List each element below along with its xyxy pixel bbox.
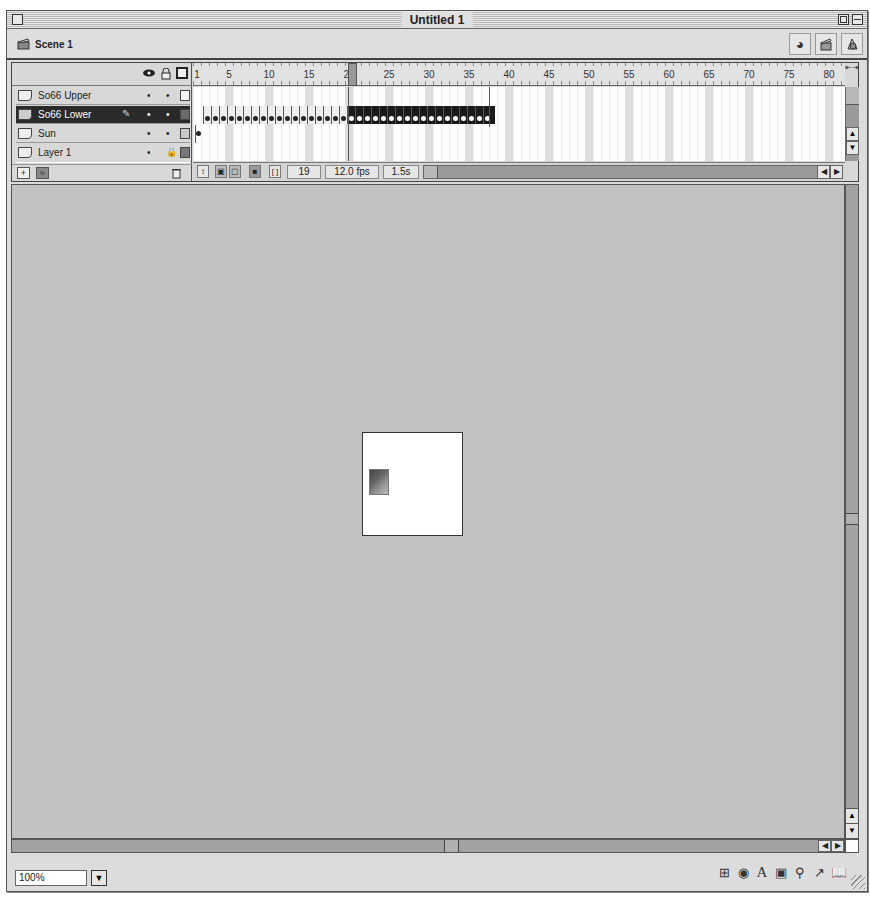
layer-row-sun[interactable]: Sun • • bbox=[16, 125, 190, 143]
edit-symbols-button[interactable] bbox=[815, 33, 837, 55]
frame-row-layer-1[interactable] bbox=[193, 144, 845, 162]
lock-icon[interactable]: 🔒 bbox=[166, 147, 177, 157]
edit-multiple-frames-button[interactable]: ■ bbox=[249, 165, 261, 178]
visibility-dot[interactable]: • bbox=[147, 90, 151, 101]
layer-row-layer-1[interactable]: Layer 1 • 🔒 bbox=[16, 144, 190, 163]
frame-ruler[interactable]: 1 5 10 15 20 25 30 35 40 45 50 55 60 65 … bbox=[193, 63, 845, 86]
flash-document-window: Untitled 1 Scene 1 ◕ bbox=[6, 10, 868, 892]
show-hide-all-icon[interactable] bbox=[142, 68, 156, 80]
outline-color-box[interactable] bbox=[180, 147, 190, 158]
scroll-thumb[interactable] bbox=[424, 166, 438, 178]
instance-icon[interactable]: ▣ bbox=[774, 865, 788, 880]
frame-row-so66-upper[interactable] bbox=[193, 87, 845, 105]
character-icon[interactable]: A bbox=[755, 864, 769, 881]
scroll-down-button[interactable]: ▼ bbox=[846, 141, 859, 155]
ruler-label: 75 bbox=[783, 69, 794, 80]
scroll-right-button[interactable]: ▶ bbox=[831, 840, 844, 852]
zoom-dropdown-button[interactable]: ▼ bbox=[91, 870, 107, 886]
ruler-label: 80 bbox=[823, 69, 834, 80]
frame-row-so66-lower[interactable] bbox=[193, 106, 845, 124]
stage-horizontal-scrollbar[interactable]: ◀ ▶ bbox=[11, 839, 845, 853]
lock-dot[interactable]: • bbox=[166, 128, 170, 139]
outline-color-box[interactable] bbox=[180, 90, 190, 101]
ruler-label: 40 bbox=[503, 69, 514, 80]
lock-dot[interactable]: • bbox=[166, 90, 170, 101]
scroll-thumb[interactable] bbox=[846, 87, 859, 105]
timeline-horizontal-scrollbar[interactable] bbox=[423, 165, 823, 179]
info-panel-icon[interactable]: ⊞ bbox=[717, 865, 731, 880]
launcher-bar: ⊞ ◉ A ▣ ⚲ ↗ 📖 bbox=[717, 864, 845, 881]
stage-canvas[interactable] bbox=[362, 432, 463, 536]
actions-icon[interactable]: ↗ bbox=[812, 865, 826, 880]
zoom-level-field[interactable]: 100% bbox=[15, 870, 87, 886]
playhead-handle[interactable] bbox=[348, 63, 357, 86]
scene-label: Scene 1 bbox=[35, 39, 73, 50]
visibility-dot[interactable]: • bbox=[147, 128, 151, 139]
frames-panel: 1 5 10 15 20 25 30 35 40 45 50 55 60 65 … bbox=[193, 63, 859, 181]
trash-icon bbox=[171, 167, 182, 179]
layer-row-so66-upper[interactable]: So66 Upper • • bbox=[16, 87, 190, 105]
current-frame-field: 19 bbox=[287, 165, 321, 179]
visibility-dot[interactable]: • bbox=[147, 109, 151, 120]
zoom-box-button[interactable] bbox=[838, 14, 849, 25]
scroll-down-button[interactable]: ▼ bbox=[846, 823, 858, 838]
collapse-box-button[interactable] bbox=[852, 14, 863, 25]
lock-dot[interactable]: • bbox=[166, 109, 170, 120]
scroll-right-button[interactable]: ▶ bbox=[830, 165, 843, 179]
layer-row-so66-lower[interactable]: So66 Lower ✎ • • bbox=[16, 106, 190, 124]
resize-grow-box[interactable] bbox=[851, 875, 865, 889]
layers-header bbox=[12, 63, 192, 86]
scroll-thumb[interactable] bbox=[444, 840, 459, 852]
end-frame-marker bbox=[489, 87, 490, 127]
frame-row-sun[interactable] bbox=[193, 125, 845, 143]
scroll-thumb[interactable] bbox=[846, 513, 858, 525]
keyframe[interactable] bbox=[195, 125, 201, 143]
lock-all-icon[interactable] bbox=[161, 68, 171, 82]
onion-skin-outlines-button[interactable]: ▢ bbox=[229, 165, 241, 178]
mixer-icon[interactable]: ◉ bbox=[736, 865, 750, 880]
scene-clapper-icon bbox=[17, 38, 30, 50]
scroll-up-button[interactable]: ▲ bbox=[846, 808, 858, 823]
scene-bar: Scene 1 ◕ bbox=[7, 30, 867, 60]
stage-vertical-scrollbar[interactable]: ▲ ▼ bbox=[845, 184, 859, 839]
window-titlebar[interactable]: Untitled 1 bbox=[7, 11, 867, 29]
edit-scene-button[interactable]: ◕ bbox=[789, 33, 811, 55]
scroll-left-button[interactable]: ◀ bbox=[817, 165, 830, 179]
layer-name: Sun bbox=[38, 128, 56, 139]
ruler-label: 60 bbox=[663, 69, 674, 80]
layer-icon bbox=[18, 109, 32, 120]
ruler-label: 5 bbox=[226, 69, 232, 80]
frame-rate-field[interactable]: 12.0 fps bbox=[325, 165, 379, 179]
onion-skin-button[interactable]: ▣ bbox=[215, 165, 227, 178]
timeline-vertical-scrollbar[interactable]: ▲ ▼ bbox=[845, 87, 859, 161]
frames-grid[interactable] bbox=[193, 87, 845, 161]
movie-explorer-icon[interactable]: ⚲ bbox=[793, 865, 807, 880]
delete-layer-button[interactable] bbox=[170, 167, 183, 179]
bitmap-symbol-instance[interactable] bbox=[369, 469, 389, 495]
outline-all-icon[interactable] bbox=[176, 67, 188, 79]
layer-icon bbox=[18, 147, 32, 158]
edit-shapes-button[interactable] bbox=[841, 33, 863, 55]
scroll-up-button[interactable]: ▲ bbox=[846, 127, 859, 141]
ruler-label: 65 bbox=[703, 69, 714, 80]
visibility-dot[interactable]: • bbox=[147, 147, 151, 158]
ruler-label: 55 bbox=[623, 69, 634, 80]
library-icon[interactable]: 📖 bbox=[831, 865, 845, 880]
pencil-edit-icon: ✎ bbox=[122, 108, 130, 119]
scrollbar-corner bbox=[845, 839, 859, 853]
edit-symbols-icon bbox=[819, 37, 833, 51]
add-layer-button[interactable]: + bbox=[17, 167, 30, 179]
close-box-button[interactable] bbox=[12, 14, 23, 25]
add-guide-layer-button[interactable]: ≈ bbox=[36, 167, 49, 179]
scroll-left-button[interactable]: ◀ bbox=[818, 840, 831, 852]
outline-color-box[interactable] bbox=[180, 109, 190, 120]
modify-onion-markers-button[interactable]: [ ] bbox=[269, 165, 281, 178]
ruler-label: 70 bbox=[743, 69, 754, 80]
outline-color-box[interactable] bbox=[180, 128, 190, 139]
layer-icon bbox=[18, 128, 32, 139]
ruler-label: 45 bbox=[543, 69, 554, 80]
timeline-options-button[interactable]: ⇤⇥ bbox=[845, 63, 859, 86]
center-frame-button[interactable]: ↕ bbox=[197, 165, 209, 178]
stage-work-area[interactable] bbox=[11, 184, 845, 839]
ruler-label: 10 bbox=[263, 69, 274, 80]
